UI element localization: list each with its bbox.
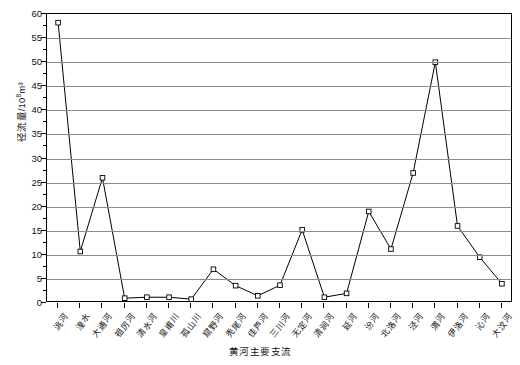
y-axis-tick-label: 0 <box>2 297 42 308</box>
x-axis-tick-label: 祖厉河 <box>111 310 137 339</box>
x-axis-tick-label: 大汶河 <box>488 310 514 339</box>
x-axis-tick-label: 延河 <box>338 310 359 332</box>
x-axis-tick <box>479 303 480 308</box>
data-point-marker <box>145 295 150 300</box>
gridline <box>47 86 511 87</box>
x-axis-tick-label: 清水河 <box>133 310 159 339</box>
x-axis-tick <box>235 303 236 308</box>
y-axis-minor-tick <box>43 218 46 219</box>
gridline <box>47 231 511 232</box>
gridline <box>47 38 511 39</box>
y-axis-minor-tick <box>43 25 46 26</box>
x-axis-tick-label: 秃尾河 <box>222 310 248 339</box>
x-axis-tick <box>412 303 413 308</box>
gridline <box>47 159 511 160</box>
y-axis-minor-tick <box>43 242 46 243</box>
y-axis-minor-tick <box>43 121 46 122</box>
x-axis-title: 黄河主要支流 <box>0 344 520 358</box>
x-axis-tick <box>434 303 435 308</box>
x-axis-tick <box>124 303 125 308</box>
data-point-marker <box>256 293 261 298</box>
x-axis-tick <box>368 303 369 308</box>
x-axis-tick <box>212 303 213 308</box>
y-axis-tick-label: 45 <box>2 80 42 91</box>
x-axis-tick-label: 洮河 <box>50 310 71 332</box>
x-axis-tick <box>323 303 324 308</box>
x-axis-tick-label: 渭河 <box>427 310 448 332</box>
runoff-line-chart: 径流量/108m³ 051015202530354045505560 洮河湟水大… <box>0 0 520 365</box>
data-point-marker <box>78 249 83 254</box>
y-axis-minor-tick <box>43 97 46 98</box>
y-axis-minor-tick <box>43 170 46 171</box>
x-axis-tick-label: 三川河 <box>266 310 292 339</box>
x-axis-tick-label: 窟野河 <box>200 310 226 339</box>
x-axis-tick-label: 大通河 <box>89 310 115 339</box>
y-axis-tick-label: 35 <box>2 128 42 139</box>
gridline <box>47 62 511 63</box>
data-point-marker <box>366 209 371 214</box>
y-axis-tick-label: 30 <box>2 152 42 163</box>
y-axis-minor-tick <box>43 49 46 50</box>
data-point-marker <box>189 297 194 302</box>
x-axis-tick-label: 皇甫川 <box>155 310 181 339</box>
data-point-marker <box>211 267 216 272</box>
y-axis-tick-label: 25 <box>2 176 42 187</box>
data-point-marker <box>167 295 172 300</box>
data-point-marker <box>278 283 283 288</box>
gridline <box>47 255 511 256</box>
data-point-marker <box>389 247 394 252</box>
data-point-marker <box>122 296 127 301</box>
x-axis-tick <box>57 303 58 308</box>
data-point-marker <box>455 224 460 229</box>
gridline <box>47 134 511 135</box>
y-axis-minor-tick <box>43 290 46 291</box>
y-axis-tick-label: 15 <box>2 224 42 235</box>
x-axis-tick <box>501 303 502 308</box>
y-axis-minor-tick <box>43 266 46 267</box>
x-axis-tick-label: 佳芦河 <box>244 310 270 339</box>
y-axis-tick-label: 20 <box>2 200 42 211</box>
data-point-marker <box>411 171 416 176</box>
x-axis-tick <box>457 303 458 308</box>
y-axis-tick-label: 60 <box>2 8 42 19</box>
x-axis-tick <box>301 303 302 308</box>
data-point-marker <box>344 291 349 296</box>
x-axis-tick-label: 清涧河 <box>311 310 337 339</box>
plot-area <box>46 13 512 302</box>
gridline <box>47 207 511 208</box>
x-axis-tick-label: 北洛河 <box>377 310 403 339</box>
x-axis-tick <box>279 303 280 308</box>
y-axis-minor-tick <box>43 194 46 195</box>
x-axis-tick <box>79 303 80 308</box>
y-axis-tick-label: 40 <box>2 104 42 115</box>
x-axis-tick <box>390 303 391 308</box>
x-axis-tick-label: 伊洛河 <box>444 310 470 339</box>
data-point-marker <box>233 283 238 288</box>
gridline <box>47 183 511 184</box>
y-axis-minor-tick <box>43 145 46 146</box>
x-axis-tick-label: 孤山川 <box>177 310 203 339</box>
x-axis-tick-label: 泾河 <box>405 310 426 332</box>
data-point-marker <box>500 281 505 286</box>
x-axis-tick <box>346 303 347 308</box>
x-axis-tick <box>146 303 147 308</box>
data-point-marker <box>100 175 105 180</box>
x-axis-tick <box>257 303 258 308</box>
x-axis-tick <box>101 303 102 308</box>
x-axis-tick-label: 无定河 <box>288 310 314 339</box>
x-axis-tick <box>190 303 191 308</box>
y-axis-tick-label: 5 <box>2 272 42 283</box>
y-axis-tick-label: 50 <box>2 56 42 67</box>
y-axis-title-exponent: 8 <box>15 94 22 98</box>
data-point-marker <box>322 295 327 300</box>
y-axis-tick-label: 55 <box>2 32 42 43</box>
y-axis-minor-tick <box>43 73 46 74</box>
data-point-marker <box>56 20 61 25</box>
x-axis-tick <box>168 303 169 308</box>
gridline <box>47 110 511 111</box>
y-axis-tick-label: 10 <box>2 248 42 259</box>
gridline <box>47 279 511 280</box>
